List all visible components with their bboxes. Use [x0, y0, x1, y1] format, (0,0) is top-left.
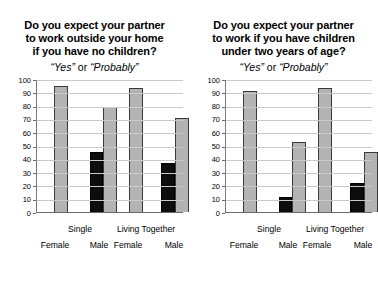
plot-wrapper-left: 1009080706050403020100: [0, 80, 189, 214]
y-axis-tick-label: 70: [5, 116, 31, 124]
y-axis-tick-label: 0: [5, 210, 31, 218]
y-axis-tick: [33, 186, 36, 187]
y-axis-tick: [33, 173, 36, 174]
chart-title-line: to work outside your home: [0, 32, 189, 45]
gridline: [226, 200, 372, 201]
gridline: [37, 133, 183, 134]
y-axis-tick-label: 80: [194, 103, 220, 111]
group-label-living-together: Living Together: [96, 224, 196, 234]
y-axis-tick: [33, 93, 36, 94]
y-axis-tick-label: 100: [5, 77, 31, 85]
plot-wrapper-right: 1009080706050403020100: [189, 80, 378, 214]
gridline: [226, 147, 372, 148]
y-axis-tick: [222, 173, 225, 174]
y-axis-tick: [222, 80, 225, 81]
y-axis-tick-label: 50: [194, 143, 220, 151]
y-axis-tick: [222, 107, 225, 108]
y-axis-tick-label: 70: [194, 116, 220, 124]
chart-subtitle-probably: “Probably”: [279, 61, 327, 73]
gridline: [37, 173, 183, 174]
gridline: [37, 107, 183, 108]
y-axis-tick-label: 20: [5, 183, 31, 191]
chart-title-line: to work if you have children: [189, 32, 378, 45]
y-axis-tick-label: 30: [194, 170, 220, 178]
y-axis-tick: [33, 80, 36, 81]
y-axis-tick-label: 60: [5, 130, 31, 138]
y-axis-tick: [33, 160, 36, 161]
gridline: [226, 186, 372, 187]
gridline: [226, 160, 372, 161]
y-axis-tick: [222, 133, 225, 134]
y-axis-tick-label: 40: [194, 156, 220, 164]
y-axis-tick: [33, 133, 36, 134]
chart-subtitle-yes: “Yes”: [50, 61, 75, 73]
chart-subtitle-probably: “Probably”: [90, 61, 138, 73]
chart-panel-left: Do you expect your partner to work outsi…: [0, 0, 189, 292]
chart-subtitle-yes: “Yes”: [239, 61, 264, 73]
chart-title-line: under two years of age?: [189, 45, 378, 58]
x-axis-labels-right: Single Living Together Female Male Femal…: [225, 216, 372, 256]
y-axis-tick-label: 90: [5, 90, 31, 98]
y-axis-tick: [33, 200, 36, 201]
y-axis-tick-label: 80: [5, 103, 31, 111]
gridline: [37, 200, 183, 201]
chart-subtitle: “Yes” or “Probably”: [189, 60, 378, 74]
bar-living-together-male-black: [161, 163, 175, 212]
y-axis-tick-label: 20: [194, 183, 220, 191]
gridline: [226, 120, 372, 121]
gridline: [37, 147, 183, 148]
y-axis-tick: [33, 213, 36, 214]
gridline: [37, 186, 183, 187]
dual-bar-chart-figure: Do you expect your partner to work outsi…: [0, 0, 378, 292]
bar-living-together-male-grey: [175, 118, 189, 212]
y-axis-tick: [222, 213, 225, 214]
gridline: [37, 93, 183, 94]
chart-title-line: Do you expect your partner: [0, 19, 189, 32]
plot-area-left: [36, 80, 183, 213]
y-axis-tick: [33, 147, 36, 148]
y-axis-tick-label: 60: [194, 130, 220, 138]
chart-title-block-right: Do you expect your partner to work if yo…: [189, 0, 378, 74]
y-axis-tick: [222, 200, 225, 201]
gridline: [37, 160, 183, 161]
y-axis-tick-label: 50: [5, 143, 31, 151]
y-axis-tick-label: 30: [5, 170, 31, 178]
y-axis-tick-label: 100: [194, 77, 220, 85]
y-axis-tick-label: 90: [194, 90, 220, 98]
sex-label-male: Male: [330, 240, 378, 250]
chart-title-block-left: Do you expect your partner to work outsi…: [0, 0, 189, 74]
plot-area-right: [225, 80, 372, 213]
chart-subtitle-or: or: [267, 61, 276, 73]
bar-single-male-black: [90, 152, 104, 212]
y-axis-tick: [222, 93, 225, 94]
y-axis-tick: [222, 120, 225, 121]
bar-single-male-grey: [292, 142, 306, 212]
y-axis-tick: [222, 160, 225, 161]
chart-subtitle: “Yes” or “Probably”: [0, 60, 189, 74]
y-axis-tick-label: 40: [5, 156, 31, 164]
y-axis-tick: [33, 107, 36, 108]
chart-title-line: Do you expect your partner: [189, 19, 378, 32]
y-axis-tick-label: 10: [5, 196, 31, 204]
gridline: [226, 107, 372, 108]
y-axis-tick: [33, 120, 36, 121]
y-axis-tick-label: 0: [194, 210, 220, 218]
chart-subtitle-or: or: [78, 61, 87, 73]
chart-panel-right: Do you expect your partner to work if yo…: [189, 0, 378, 292]
gridline: [226, 133, 372, 134]
bar-single-female-grey: [243, 91, 257, 212]
chart-title-line: if you have no children?: [0, 45, 189, 58]
gridline: [226, 80, 372, 81]
gridline: [37, 80, 183, 81]
bar-living-together-male-grey: [364, 152, 378, 212]
gridline: [37, 120, 183, 121]
group-label-living-together: Living Together: [285, 224, 378, 234]
y-axis-tick: [222, 147, 225, 148]
bar-single-female-grey: [54, 86, 68, 212]
gridline: [226, 93, 372, 94]
x-axis-labels-left: Single Living Together Female Male Femal…: [36, 216, 183, 256]
y-axis-tick-label: 10: [194, 196, 220, 204]
y-axis-tick: [222, 186, 225, 187]
gridline: [226, 173, 372, 174]
